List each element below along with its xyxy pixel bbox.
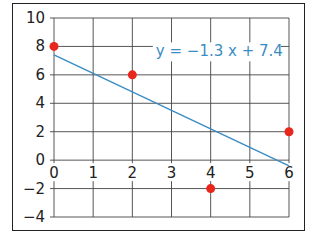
equation-label: y = −1.3 x + 7.4 xyxy=(156,42,283,60)
data-point xyxy=(128,70,137,79)
y-tick-label: 2 xyxy=(35,123,45,141)
x-tick-label: 2 xyxy=(128,164,138,182)
x-tick-label: 6 xyxy=(284,164,294,182)
equation-annotation: y = −1.3 x + 7.4 xyxy=(153,42,283,61)
data-point xyxy=(206,184,215,193)
y-tick-label: −4 xyxy=(23,208,45,226)
x-tick-label: 5 xyxy=(245,164,255,182)
y-tick-label: 10 xyxy=(26,9,45,27)
y-tick-label: 4 xyxy=(35,94,45,112)
y-tick-label: 0 xyxy=(35,151,45,169)
y-axis-ticks: 1086420−2−4 xyxy=(23,9,45,226)
data-point xyxy=(285,127,294,136)
y-tick-label: −2 xyxy=(23,180,45,198)
x-tick-label: 1 xyxy=(88,164,98,182)
x-axis-ticks: 0123456 xyxy=(47,163,296,182)
data-point xyxy=(50,42,59,51)
x-tick-label: 0 xyxy=(49,164,59,182)
x-tick-label: 3 xyxy=(167,164,177,182)
scatter-chart: 1086420−2−4 0123456 y = −1.3 x + 7.4 xyxy=(0,0,312,235)
y-tick-label: 8 xyxy=(35,37,45,55)
y-tick-label: 6 xyxy=(35,66,45,84)
x-tick-label: 4 xyxy=(206,164,216,182)
